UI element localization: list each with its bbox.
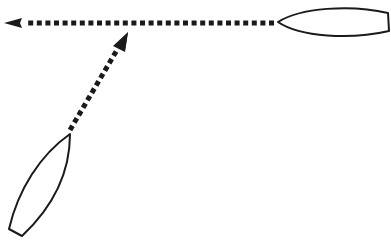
boat-hull-right bbox=[278, 8, 389, 36]
diagram-canvas bbox=[0, 0, 391, 242]
arrowhead-up-right-fill bbox=[113, 32, 128, 52]
arrowhead-left-icon bbox=[4, 18, 22, 28]
dotted-arrow-diagonal-shaft bbox=[70, 50, 117, 130]
boat-hull-left bbox=[9, 134, 70, 236]
